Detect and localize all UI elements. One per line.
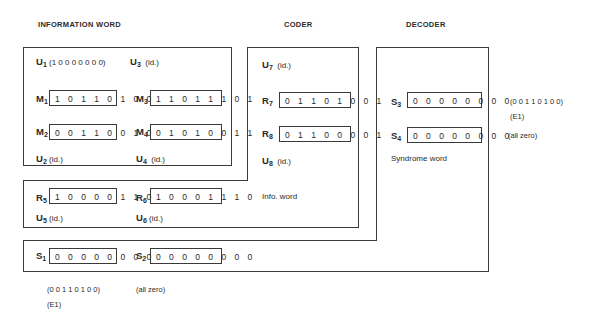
s3-register: 0 0 0 0 0 0 0 0 [407,92,482,108]
m4-label: M4 [136,126,148,137]
decoder-outline-left-upper [376,47,377,240]
decoder-caption: Syndrome word [391,154,447,163]
u2-label: U2 (id.) [36,153,63,164]
r7-register: 0 1 1 0 1 0 0 1 [279,92,351,108]
bottom-error-pattern: (0 0 1 1 0 1 0 0) [47,285,100,294]
decoder-outline-bottom [23,271,489,272]
header-decoder: DECODER [406,20,446,29]
s1-register: 0 0 0 0 0 0 0 0 [49,248,117,264]
right-error-tag: (E1) [510,112,524,121]
u1-label: U1 (1 0 0 0 0 0 0 0) [36,56,106,67]
s3-label: S3 [391,96,401,107]
coder-outline-left-lower [23,180,24,227]
header-coder: CODER [284,20,313,29]
u6-label: U6 (id.) [136,212,163,223]
r8-register: 0 1 1 0 0 0 0 1 [279,126,351,142]
m1-register: 1 0 1 1 0 1 0 0 [49,90,117,106]
bottom-error-tag: (E1) [47,300,61,309]
r5-register: 1 0 0 0 0 1 1 0 [49,188,117,204]
s4-register: 0 0 0 0 0 0 0 0 [407,127,482,143]
decoder-outline-right [488,47,489,272]
m2-label: M2 [36,126,48,137]
m4-register: 0 1 0 1 0 0 1 1 [150,124,222,140]
u1-value: (1 0 0 0 0 0 0 0) [49,58,105,67]
decoder-outline-left-lower [23,240,24,272]
coder-outline-bottom [23,227,359,228]
s1-label: S1 [36,250,46,261]
u7-label: U7 (id.) [262,59,291,70]
right-all-zero: (all zero) [508,131,537,140]
u5-label: U5 (id.) [36,212,63,223]
u3-label: U3 (id.) [130,56,159,67]
coder-outline-left-upper [247,47,248,180]
s4-label: S4 [391,130,401,141]
decoder-outline-top [376,47,488,48]
right-error-pattern: (0 0 1 1 0 1 0 0) [510,97,563,106]
coder-outline-top [247,47,359,48]
u8-label: U8 (id.) [262,155,291,166]
r5-label: R5 [36,192,47,203]
u4-label: U4 (id.) [136,153,165,164]
s2-register: 0 0 0 0 0 0 0 0 [150,248,222,264]
s2-label: S2 [136,250,146,261]
m2-register: 0 0 1 1 0 0 1 0 [49,124,117,140]
r8-label: R8 [262,128,273,139]
decoder-outline-step [23,240,377,241]
m3-label: M3 [136,93,148,104]
m1-label: M1 [36,93,48,104]
bottom-all-zero: (all zero) [136,285,165,294]
coder-outline-step [23,180,248,181]
coder-caption: Info. word [262,192,297,201]
r7-label: R7 [262,95,273,106]
m3-register: 1 1 0 1 1 1 0 1 [150,90,222,106]
header-information-word: INFORMATION WORD [38,20,121,29]
r6-label: R6 [136,192,147,203]
r6-register: 1 0 0 0 1 1 1 0 [150,188,222,204]
